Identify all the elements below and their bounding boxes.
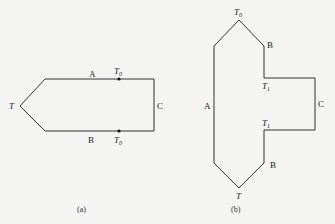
diagram-canvas: T A B C T0 T0 (a) T0 B A T1 C T1 B T (b) [0, 0, 335, 224]
caption-b: (b) [231, 205, 241, 214]
label-bottom-vertex: T [236, 191, 242, 201]
label-lower-notch: T1 [262, 118, 270, 129]
label-upper-notch: T1 [262, 81, 270, 92]
caption-a: (a) [77, 205, 86, 214]
figure-a: T A B C T0 T0 (a) [9, 66, 163, 214]
label-top-edge: A [89, 69, 96, 79]
label-left-vertex: T [9, 101, 15, 111]
label-bottom-edge: B [88, 135, 94, 145]
label-bottom-dot: T0 [114, 135, 122, 146]
figure-a-outline [20, 79, 154, 131]
label-lower-right: B [270, 160, 276, 170]
label-right-edge: C [318, 99, 324, 109]
figure-b: T0 B A T1 C T1 B T (b) [204, 7, 324, 214]
label-left-edge: A [204, 101, 211, 111]
label-right-edge: C [157, 101, 163, 111]
label-top-dot: T0 [114, 66, 122, 77]
label-top-vertex: T0 [234, 7, 242, 18]
bottom-dot [117, 129, 120, 132]
top-dot [117, 77, 120, 80]
figure-b-outline [214, 20, 315, 188]
label-upper-right: B [267, 40, 273, 50]
